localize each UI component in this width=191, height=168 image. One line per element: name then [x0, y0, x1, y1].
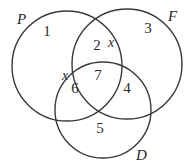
region-value-d-only: 5 — [96, 120, 104, 136]
venn-diagram: PFD 1234567 xx — [0, 0, 191, 168]
region-value-p-f: 2 — [93, 37, 101, 53]
variable-x-label: x — [61, 68, 69, 83]
region-value-p-f-d: 7 — [94, 67, 102, 83]
variable-x-label: x — [107, 35, 115, 50]
set-label-p: P — [16, 11, 26, 27]
circle-set-d — [55, 62, 151, 158]
region-value-f-only: 3 — [144, 20, 152, 36]
circle-set-p — [12, 11, 122, 121]
region-value-f-d: 4 — [123, 80, 131, 96]
set-label-d: D — [135, 147, 147, 163]
region-value-p-d: 6 — [71, 80, 79, 96]
region-value-p-only: 1 — [43, 23, 51, 39]
set-label-f: F — [167, 8, 178, 24]
